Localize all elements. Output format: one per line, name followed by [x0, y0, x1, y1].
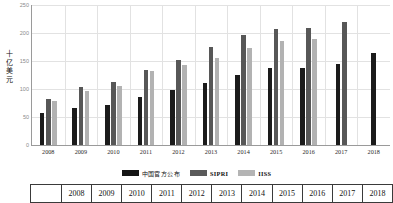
bar-group: 2009 [65, 5, 98, 145]
x-axis-tick-label: 2013 [195, 148, 228, 156]
table-year-header-cell: 2017 [332, 185, 362, 203]
y-axis-tick-label: 100 [20, 86, 29, 92]
bar [117, 86, 122, 145]
bar [40, 113, 45, 145]
table-year-header-cell: 2018 [362, 185, 392, 203]
bar [72, 108, 77, 145]
bar-group: 2011 [130, 5, 163, 145]
chart-legend: 中国官方公布SIPRIIISS [0, 166, 393, 180]
bar [105, 105, 110, 145]
y-axis-tick-label: 150 [20, 58, 29, 64]
bar-group-bars [65, 5, 98, 145]
bar-group: 2017 [325, 5, 358, 145]
y-axis-label: 十亿美元 [2, 50, 16, 84]
table-year-header-cell: 2014 [242, 185, 272, 203]
bar-group-bars [357, 5, 390, 145]
legend-swatch [190, 170, 207, 176]
table-corner-cell [31, 185, 62, 203]
bar [247, 48, 252, 145]
legend-label: IISS [258, 170, 271, 177]
table-year-header-cell: 2016 [302, 185, 332, 203]
bar-group: 2014 [227, 5, 260, 145]
legend-item[interactable]: SIPRI [190, 170, 228, 177]
bar [144, 70, 149, 145]
bar [268, 68, 273, 145]
bar [312, 39, 317, 145]
bar [85, 91, 90, 145]
bar-group-bars [292, 5, 325, 145]
bar-group: 2010 [97, 5, 130, 145]
y-axis-label-char: 美 [2, 67, 16, 76]
plot-area: 050100150200250 200820092010201120122013… [31, 5, 390, 146]
bar-group-bars [195, 5, 228, 145]
bar [176, 60, 181, 145]
legend-item[interactable]: 中国官方公布 [122, 170, 180, 177]
bar-group: 2008 [32, 5, 65, 145]
y-axis-label-char: 十 [2, 50, 16, 59]
bar [79, 87, 84, 145]
bar-group-bars [32, 5, 65, 145]
bar [46, 99, 51, 145]
bar-group: 2015 [260, 5, 293, 145]
table-header-row: 2008200920102011201220132014201520162017… [31, 185, 393, 203]
bar-group: 2016 [292, 5, 325, 145]
bar-group-bars [325, 5, 358, 145]
bar [209, 47, 214, 145]
bar [235, 75, 240, 145]
table-year-header-cell: 2012 [182, 185, 212, 203]
y-axis-tick-label: 50 [23, 114, 29, 120]
year-header-table: 2008200920102011201220132014201520162017… [30, 184, 393, 203]
y-axis-tick-label: 200 [20, 30, 29, 36]
bar-group: 2013 [195, 5, 228, 145]
legend-item[interactable]: IISS [238, 170, 271, 177]
table-year-header-cell: 2010 [122, 185, 152, 203]
bar-group-bars [260, 5, 293, 145]
bar [52, 101, 57, 145]
bar [300, 68, 305, 145]
bar-groups: 2008200920102011201220132014201520162017… [32, 5, 390, 145]
legend-label: 中国官方公布 [142, 170, 180, 177]
table-year-header-cell: 2011 [152, 185, 182, 203]
x-axis-tick-label: 2016 [292, 148, 325, 156]
legend-swatch [122, 170, 139, 176]
bar [150, 71, 155, 145]
bar [241, 35, 246, 145]
bar [111, 82, 116, 145]
x-axis-tick-label: 2018 [357, 148, 390, 156]
y-axis-tick-label: 0 [26, 142, 29, 148]
bar [274, 29, 279, 145]
bar [182, 65, 187, 145]
x-axis-tick-label: 2012 [162, 148, 195, 156]
bar-group-bars [162, 5, 195, 145]
x-axis-tick-label: 2008 [32, 148, 65, 156]
y-axis-label-char: 亿 [2, 59, 16, 68]
bar-group: 2012 [162, 5, 195, 145]
x-axis-tick-label: 2015 [260, 148, 293, 156]
grouped-bar-chart: 十亿美元 050100150200250 2008200920102011201… [0, 0, 393, 165]
bar [336, 64, 341, 145]
chart-screenshot: 十亿美元 050100150200250 2008200920102011201… [0, 0, 393, 203]
legend-swatch [238, 170, 255, 176]
bar-group-bars [130, 5, 163, 145]
bar-group-bars [97, 5, 130, 145]
table-year-header-cell: 2015 [272, 185, 302, 203]
bar [138, 97, 143, 145]
bar [371, 53, 376, 145]
legend-label: SIPRI [210, 170, 228, 177]
y-axis-label-char: 元 [2, 76, 16, 85]
x-axis-tick-label: 2009 [65, 148, 98, 156]
bar-group-bars [227, 5, 260, 145]
y-axis-tick-label: 250 [20, 2, 29, 8]
bar [280, 41, 285, 145]
table-year-header-cell: 2008 [62, 185, 92, 203]
table-year-header-cell: 2013 [212, 185, 242, 203]
bottom-data-table: 2008200920102011201220132014201520162017… [30, 184, 393, 203]
bar [342, 22, 347, 145]
bar [215, 58, 220, 145]
x-axis-tick-label: 2010 [97, 148, 130, 156]
bar [170, 90, 175, 145]
bar-group: 2018 [357, 5, 390, 145]
x-axis-tick-label: 2017 [325, 148, 358, 156]
x-axis-tick-label: 2011 [130, 148, 163, 156]
bar [306, 28, 311, 145]
